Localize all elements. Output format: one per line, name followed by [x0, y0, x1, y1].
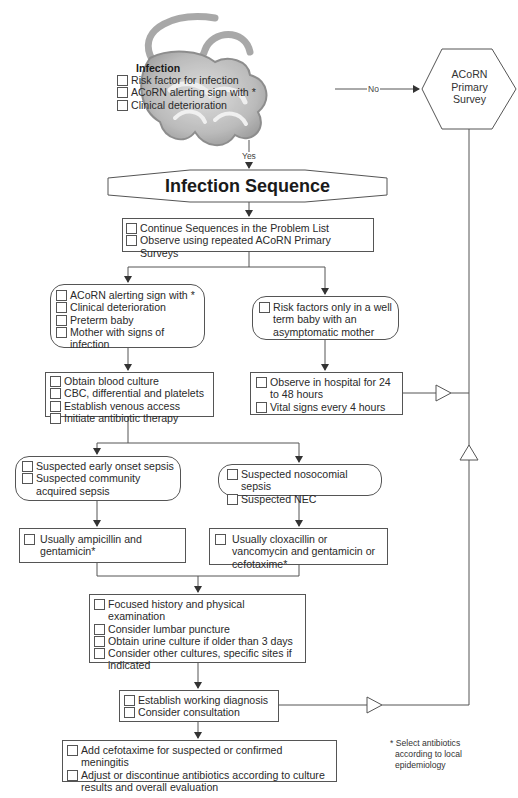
checkbox[interactable]	[22, 461, 33, 472]
checkbox[interactable]	[50, 376, 61, 387]
checklist-item: Establish working diagnosis	[124, 694, 274, 706]
ampicillin-box: Usually ampicillin and gentamicin*	[19, 528, 186, 563]
checklist-item: ACoRN alerting sign with *	[56, 289, 199, 301]
checklist-item: Risk factor for infection	[117, 74, 256, 86]
edge-label-no: No	[367, 84, 380, 94]
checklist-item: CBC, differential and platelets	[50, 387, 209, 399]
checkbox[interactable]	[94, 636, 105, 647]
checkbox[interactable]	[256, 377, 267, 388]
checkbox[interactable]	[56, 315, 67, 326]
edge-label-yes: Yes	[242, 151, 256, 161]
checklist-item: Continue Sequences in the Problem List	[126, 222, 370, 234]
checklist-item: Consider other cultures, specific sites …	[94, 647, 301, 672]
infection-entry: Infection Risk factor for infection ACoR…	[117, 62, 256, 111]
checklist-item: Preterm baby	[56, 314, 199, 326]
checkbox[interactable]	[50, 401, 61, 412]
flow-triangle-up	[460, 445, 478, 460]
checkbox[interactable]	[56, 302, 67, 313]
continue-box: Continue Sequences in the Problem List O…	[122, 218, 374, 252]
checkbox[interactable]	[227, 494, 238, 505]
checklist-item: Focused history and physical examination	[94, 598, 301, 623]
left-criteria-box: ACoRN alerting sign with * Clinical dete…	[50, 284, 205, 348]
infection-title: Infection	[136, 62, 256, 74]
checkbox[interactable]	[124, 707, 135, 718]
checklist-item: Suspected nosocomial sepsis	[227, 468, 373, 493]
checklist-item: Consider consultation	[124, 706, 274, 718]
flow-triangle-right-2	[367, 697, 382, 713]
checklist-item: Obtain blood culture	[50, 375, 209, 387]
sequence-title: Infection Sequence	[108, 170, 387, 202]
checkbox[interactable]	[259, 302, 270, 313]
checkbox[interactable]	[24, 534, 35, 545]
workup-box: Focused history and physical examination…	[89, 594, 306, 663]
flow-triangle-right	[436, 385, 451, 401]
checkbox[interactable]	[56, 290, 67, 301]
checkbox[interactable]	[117, 75, 128, 86]
checklist-item: Consider lumbar puncture	[94, 623, 301, 635]
antibiotic-footnote: * Select antibiotics according to local …	[390, 738, 515, 771]
right-criteria-box: Risk factors only in a well term baby wi…	[252, 296, 399, 340]
checklist-item: Establish venous access	[50, 400, 209, 412]
checklist-item: Adjust or discontinue antibiotics accord…	[67, 769, 332, 794]
checkbox[interactable]	[227, 469, 238, 480]
checklist-item: Usually cloxacillin or vancomycin and ge…	[215, 533, 382, 570]
checklist-item: Obtain urine culture if older than 3 day…	[94, 635, 301, 647]
checkbox[interactable]	[124, 695, 135, 706]
checkbox[interactable]	[126, 235, 137, 246]
checkbox[interactable]	[22, 473, 33, 484]
checkbox[interactable]	[50, 413, 61, 424]
cloxacillin-box: Usually cloxacillin or vancomycin and ge…	[209, 528, 388, 565]
checklist-item: Suspected NEC	[227, 493, 373, 505]
observe-box: Observe in hospital for 24 to 48 hours V…	[250, 372, 403, 415]
checklist-item: Observe using repeated ACoRN Primary Sur…	[126, 234, 370, 259]
checkbox[interactable]	[67, 745, 78, 756]
checkbox[interactable]	[117, 100, 128, 111]
checklist-item: Usually ampicillin and gentamicin*	[24, 533, 181, 558]
checklist-item: Clinical deterioration	[117, 99, 256, 111]
early-onset-sepsis-box: Suspected early onset sepsis Suspected c…	[15, 456, 181, 501]
checklist-item: Clinical deterioration	[56, 301, 199, 313]
checklist-item: Mother with signs of infection	[56, 326, 199, 351]
checkbox[interactable]	[126, 223, 137, 234]
checkbox[interactable]	[67, 770, 78, 781]
checkbox[interactable]	[215, 534, 226, 545]
checkbox[interactable]	[94, 624, 105, 635]
checklist-item: Suspected early onset sepsis	[22, 460, 174, 472]
diagnosis-box: Establish working diagnosis Consider con…	[119, 690, 279, 722]
checklist-item: Add cefotaxime for suspected or confirme…	[67, 744, 332, 769]
final-box: Add cefotaxime for suspected or confirme…	[62, 740, 337, 782]
checkbox[interactable]	[94, 599, 105, 610]
primary-survey-label[interactable]: ACoRN Primary Survey	[422, 68, 517, 106]
checkbox[interactable]	[56, 327, 67, 338]
checkbox[interactable]	[94, 648, 105, 659]
checklist-item: Vital signs every 4 hours	[256, 401, 397, 413]
checklist-item: Suspected community acquired sepsis	[22, 472, 174, 497]
left-actions-box: Obtain blood culture CBC, differential a…	[45, 372, 214, 417]
checkbox[interactable]	[256, 402, 267, 413]
checklist-item: Initiate antibiotic therapy	[50, 412, 209, 424]
checkbox[interactable]	[117, 87, 128, 98]
checklist-item: ACoRN alerting sign with *	[117, 86, 256, 98]
checkbox[interactable]	[50, 388, 61, 399]
checklist-item: Risk factors only in a well term baby wi…	[259, 301, 392, 338]
nosocomial-sepsis-box: Suspected nosocomial sepsis Suspected NE…	[218, 464, 382, 496]
checklist-item: Observe in hospital for 24 to 48 hours	[256, 376, 397, 401]
